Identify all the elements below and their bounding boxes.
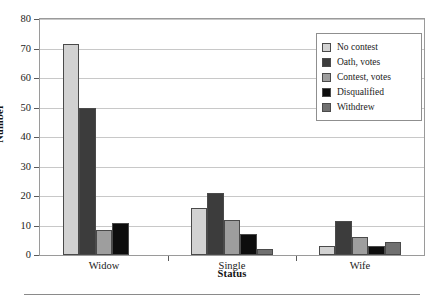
gridline: [40, 196, 424, 197]
bar: [112, 223, 129, 255]
legend-item: Contest, votes: [322, 70, 415, 84]
bar: [319, 246, 336, 255]
y-axis: 01020304050607080: [0, 18, 39, 256]
legend-swatch: [322, 43, 331, 52]
y-axis-tick-label: 0: [26, 247, 31, 263]
y-axis-tick-label: 30: [21, 159, 32, 175]
legend-label: No contest: [337, 42, 378, 53]
y-axis-tick-label: 70: [21, 41, 32, 57]
legend-label: Oath, votes: [337, 57, 380, 68]
legend-swatch: [322, 88, 331, 97]
bar: [224, 220, 241, 255]
bar: [63, 44, 80, 255]
legend-swatch: [322, 103, 331, 112]
y-axis-tick-label: 40: [21, 129, 32, 145]
y-axis-tick-label: 10: [21, 218, 32, 234]
x-axis-tick-mark: [168, 256, 169, 261]
legend-item: Oath, votes: [322, 55, 415, 69]
bar: [335, 221, 352, 255]
legend-item: No contest: [322, 40, 415, 54]
bar-chart-figure: Number 01020304050607080 WidowSingleWife…: [0, 0, 444, 304]
bar: [240, 234, 257, 255]
legend-swatch: [322, 73, 331, 82]
bar: [79, 108, 96, 256]
bar: [368, 246, 385, 255]
legend-label: Withdrew: [337, 102, 375, 113]
bar: [96, 230, 113, 255]
legend-item: Withdrew: [322, 100, 415, 114]
chart-legend: No contestOath, votesContest, votesDisqu…: [316, 33, 422, 121]
legend-label: Disqualified: [337, 87, 384, 98]
gridline: [40, 19, 424, 20]
y-axis-tick-label: 60: [21, 70, 32, 86]
x-axis-tick-mark: [296, 256, 297, 261]
legend-swatch: [322, 58, 331, 67]
bar: [257, 249, 274, 255]
x-axis-title: Status: [39, 268, 425, 279]
bar: [191, 208, 208, 255]
bar: [352, 237, 369, 255]
gridline: [40, 137, 424, 138]
legend-label: Contest, votes: [337, 72, 391, 83]
gridline: [40, 167, 424, 168]
y-axis-tick-label: 50: [21, 100, 32, 116]
y-axis-tick-label: 80: [21, 11, 32, 27]
y-axis-tick-label: 20: [21, 188, 32, 204]
bar: [207, 193, 224, 255]
bottom-rule: [24, 294, 420, 295]
bar: [385, 242, 402, 255]
legend-item: Disqualified: [322, 85, 415, 99]
